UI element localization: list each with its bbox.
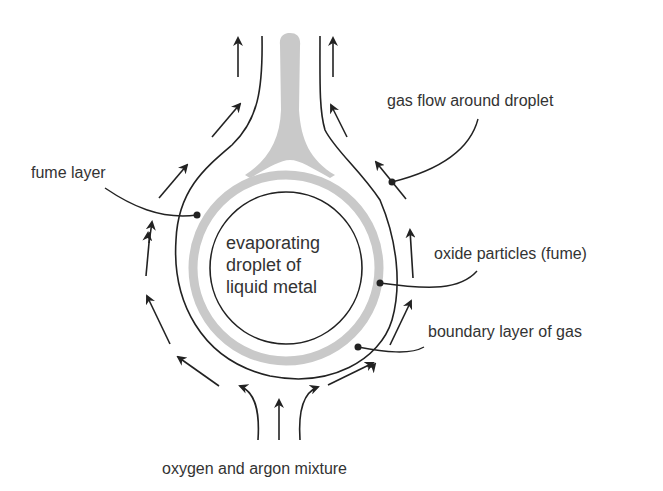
leader-oxide-particles — [380, 271, 477, 287]
label-oxide-particles: oxide particles (fume) — [434, 245, 587, 263]
droplet-label-line3: liquid metal — [226, 276, 356, 298]
dot-oxide-particles — [377, 280, 384, 287]
label-fume-layer: fume layer — [31, 164, 106, 182]
droplet-label-line1: evaporating — [226, 232, 356, 254]
dot-gas-flow — [389, 179, 396, 186]
droplet-label: evaporating droplet of liquid metal — [226, 232, 356, 298]
dot-boundary-layer — [355, 344, 362, 351]
droplet-label-line2: droplet of — [226, 254, 356, 276]
leader-gas-flow — [392, 119, 478, 182]
dot-fume-layer — [194, 212, 201, 219]
leader-boundary-layer — [358, 347, 424, 352]
label-gas-flow: gas flow around droplet — [387, 92, 553, 110]
label-boundary-layer: boundary layer of gas — [428, 323, 582, 341]
label-gas-mixture: oxygen and argon mixture — [162, 460, 347, 478]
